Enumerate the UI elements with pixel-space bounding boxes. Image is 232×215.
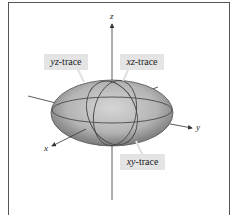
xz-trace-var: xz	[126, 56, 134, 67]
ellipsoid-diagram	[0, 0, 232, 215]
xy-trace-label: xy-trace	[120, 154, 165, 170]
yz-trace-var: yz	[50, 56, 58, 67]
xz-trace-pointer	[123, 70, 128, 81]
xy-trace-suffix: -trace	[136, 156, 159, 167]
x-axis-label: x	[44, 143, 48, 153]
yz-trace-suffix: -trace	[59, 56, 82, 67]
yz-trace-label: yz-trace	[44, 54, 88, 70]
xz-trace-label: xz-trace	[120, 54, 164, 70]
xy-trace-var: xy	[127, 156, 136, 167]
y-axis-label: y	[196, 122, 200, 132]
ellipsoid-surface	[51, 80, 173, 146]
y-axis	[170, 124, 192, 128]
z-axis-label: z	[110, 11, 114, 21]
yz-trace-pointer	[78, 70, 84, 82]
xz-trace-suffix: -trace	[135, 56, 158, 67]
x-axis-back	[28, 96, 56, 103]
